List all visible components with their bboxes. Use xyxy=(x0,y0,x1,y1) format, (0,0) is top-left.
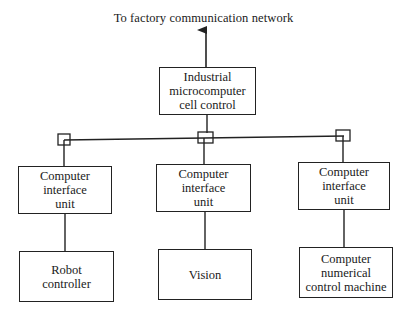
interface-unit-box-1: Computer interface unit xyxy=(18,166,112,214)
box-text: control machine xyxy=(306,280,387,294)
box-text: Industrial xyxy=(184,70,232,84)
box-text: numerical xyxy=(321,266,371,280)
network-label: To factory communication network xyxy=(0,11,407,26)
box-text: Computer xyxy=(179,167,229,181)
box-text: Computer xyxy=(40,169,90,183)
box-text: interface xyxy=(43,183,87,197)
box-text: Robot xyxy=(51,263,82,277)
vision-box: Vision xyxy=(158,249,252,300)
interface-unit-box-2: Computer interface unit xyxy=(156,164,251,212)
box-text: Computer xyxy=(319,165,369,179)
box-text: cell control xyxy=(179,98,236,112)
box-text: Vision xyxy=(189,268,222,282)
box-text: controller xyxy=(42,277,91,291)
cnc-machine-box: Computer numerical control machine xyxy=(299,247,393,298)
box-text: unit xyxy=(55,197,74,211)
box-text: unit xyxy=(194,195,213,209)
box-text: interface xyxy=(182,181,226,195)
cell-control-box: Industrial microcomputer cell control xyxy=(159,67,256,115)
interface-unit-box-3: Computer interface unit xyxy=(298,162,390,210)
robot-controller-box: Robot controller xyxy=(19,251,114,302)
box-text: microcomputer xyxy=(169,84,245,98)
box-text: interface xyxy=(322,179,366,193)
box-text: Computer xyxy=(321,252,371,266)
box-text: unit xyxy=(334,193,353,207)
